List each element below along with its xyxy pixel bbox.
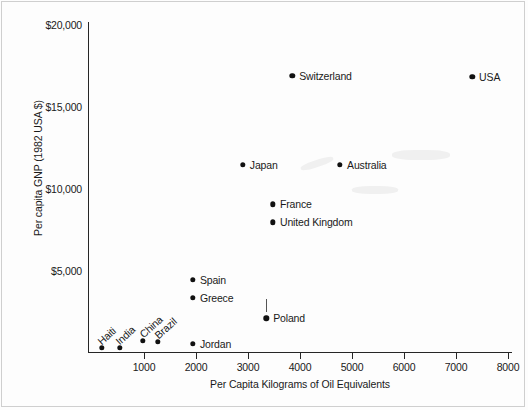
data-point[interactable]	[263, 315, 268, 320]
y-tick-label: $15,000	[45, 101, 82, 113]
scan-artifact	[300, 155, 334, 172]
poland-leader-line	[266, 299, 267, 312]
y-axis-title: Per capita GNP (1982 USA $)	[32, 68, 44, 268]
data-point[interactable]	[240, 162, 245, 167]
data-point[interactable]	[270, 220, 275, 225]
data-point-label: Switzerland	[299, 70, 352, 82]
data-point[interactable]	[469, 74, 474, 79]
data-point-label: United Kingdom	[280, 216, 353, 228]
x-tick-mark	[508, 352, 509, 359]
data-point-label: Greece	[200, 292, 234, 304]
x-tick-mark	[300, 352, 301, 359]
data-point-label: Jordan	[200, 338, 231, 350]
data-point[interactable]	[289, 73, 294, 78]
scan-artifact	[392, 150, 450, 160]
data-point-label: France	[280, 198, 312, 210]
y-tick-label: $10,000	[45, 183, 82, 195]
x-tick-mark	[196, 352, 197, 359]
x-axis-title: Per Capita Kilograms of Oil Equivalents	[88, 378, 512, 390]
y-tick-label: $20,000	[45, 19, 82, 31]
data-point[interactable]	[190, 341, 195, 346]
data-point[interactable]	[337, 162, 342, 167]
x-tick-label: 8000	[497, 361, 520, 373]
scatter-plot-figure: 10002000300040005000600070008000 $5,000$…	[0, 0, 528, 410]
x-tick-label: 4000	[289, 361, 312, 373]
data-point-label: Japan	[250, 159, 278, 171]
x-tick-mark	[404, 352, 405, 359]
x-tick-mark	[456, 352, 457, 359]
x-tick-label: 1000	[133, 361, 156, 373]
data-point-label: Poland	[273, 312, 305, 324]
x-tick-mark	[352, 352, 353, 359]
scan-artifact	[352, 186, 398, 194]
data-point[interactable]	[190, 295, 195, 300]
data-point-label: Australia	[347, 159, 387, 171]
data-point-label: India	[113, 323, 137, 347]
x-tick-label: 6000	[393, 361, 416, 373]
x-tick-mark	[144, 352, 145, 359]
x-tick-label: 7000	[445, 361, 468, 373]
y-axis-line	[88, 22, 89, 353]
data-point-label: Spain	[200, 274, 226, 286]
x-tick-label: 5000	[341, 361, 364, 373]
data-point[interactable]	[190, 277, 195, 282]
y-tick-label: $5,000	[51, 265, 82, 277]
x-tick-label: 3000	[237, 361, 260, 373]
x-tick-label: 2000	[185, 361, 208, 373]
data-point[interactable]	[270, 202, 275, 207]
data-point-label: USA	[479, 71, 500, 83]
x-tick-mark	[248, 352, 249, 359]
